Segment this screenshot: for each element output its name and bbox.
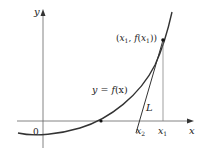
y-axis-label: y <box>33 6 40 17</box>
y-axis-arrow-icon <box>41 9 46 16</box>
x-axis-arrow-icon <box>187 119 194 124</box>
curve-label-eq: = <box>97 84 111 95</box>
x2-label: x2 <box>136 125 145 137</box>
y-axis <box>41 9 46 148</box>
root-point <box>99 119 102 122</box>
origin-label: 0 <box>33 127 39 137</box>
x-axis-label: x <box>189 125 195 136</box>
newton-method-diagram: y x 0 y = f(x) (x1, f(x1)) L x2 x1 <box>0 0 207 154</box>
tangent-label: L <box>145 102 153 113</box>
x1-label: x1 <box>158 125 167 137</box>
point-label: (x1, f(x1)) <box>116 33 157 44</box>
tangent-line-L <box>136 40 163 133</box>
x-axis <box>17 119 194 124</box>
point-x1-fx1 <box>161 38 165 42</box>
curve-f <box>18 12 172 135</box>
curve-label: y = f(x) <box>91 84 128 95</box>
